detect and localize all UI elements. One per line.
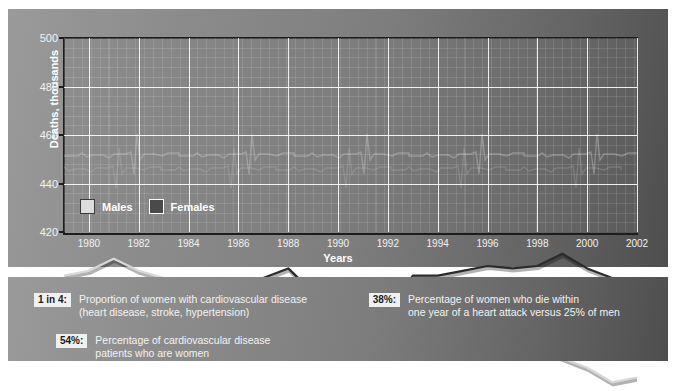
legend-swatch-males-icon — [80, 199, 95, 214]
legend-label-females: Females — [171, 201, 215, 213]
chart-legend: Males Females — [80, 199, 215, 214]
legend-label-males: Males — [102, 201, 133, 213]
fact-proportion-women-cvd: 1 in 4: Proportion of women with cardiov… — [34, 293, 369, 319]
fact-text: Percentage of women who die within one y… — [408, 293, 620, 319]
fact-percentage-women-die-within-year: 38%: Percentage of women who die within … — [369, 293, 642, 319]
fact-text-line1: Percentage of cardiovascular disease — [95, 334, 270, 346]
facts-column-left: 1 in 4: Proportion of women with cardiov… — [34, 293, 369, 345]
fact-badge: 38%: — [369, 293, 400, 307]
facts-column-right: 38%: Percentage of women who die within … — [369, 293, 642, 345]
fact-text-line2: patients who are women — [95, 347, 209, 359]
legend-item-males[interactable]: Males — [80, 199, 133, 214]
legend-item-females[interactable]: Females — [149, 199, 215, 214]
fact-text-line1: Proportion of women with cardiovascular … — [79, 293, 307, 305]
legend-swatch-females-icon — [149, 199, 164, 214]
fact-badge: 54%: — [56, 334, 87, 348]
gridline-horizontal — [64, 135, 637, 136]
y-axis-title: Deaths, thousands — [48, 39, 60, 159]
fact-percentage-cvd-patients-women: 54%: Percentage of cardiovascular diseas… — [56, 334, 369, 360]
y-axis-tick-label: 480 — [28, 82, 58, 92]
gridline-horizontal — [64, 87, 637, 88]
fact-text: Percentage of cardiovascular disease pat… — [95, 334, 270, 360]
y-axis-tick-label: 500 — [28, 33, 58, 43]
gridline-horizontal — [64, 184, 637, 185]
y-axis-tick-label: 460 — [28, 130, 58, 140]
chart-panel: Deaths, thousands 420440460480500 198019… — [8, 9, 668, 267]
x-axis-title: Years — [8, 252, 668, 264]
gridline-vertical — [637, 38, 638, 232]
fact-text-line2: one year of a heart attack versus 25% of… — [408, 306, 620, 318]
fact-text: Proportion of women with cardiovascular … — [79, 293, 307, 319]
fact-badge: 1 in 4: — [34, 293, 71, 307]
fact-text-line2: (heart disease, stroke, hypertension) — [79, 306, 249, 318]
fact-text-line1: Percentage of women who die within — [408, 293, 579, 305]
y-axis-tick-label: 420 — [28, 227, 58, 237]
facts-panel: 1 in 4: Proportion of women with cardiov… — [8, 277, 668, 361]
y-axis-tick-label: 440 — [28, 179, 58, 189]
